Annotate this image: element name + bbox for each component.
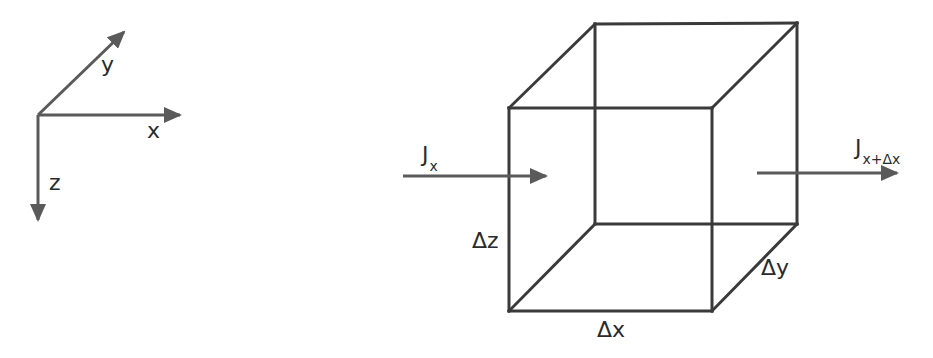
x-axis-label: x [147, 120, 160, 142]
flux-in-subscript: x [430, 158, 438, 174]
control-volume-cube [509, 23, 797, 311]
flux-out-label: Jx+Δx [855, 137, 899, 159]
dx-label: Δx [597, 319, 625, 341]
flux-in-symbol: J [422, 142, 429, 167]
flux-in-label: Jx [422, 144, 437, 166]
dy-label: Δy [761, 257, 789, 279]
y-axis-label: y [101, 54, 114, 76]
z-axis-label: z [49, 172, 61, 194]
diagram-canvas [0, 0, 933, 358]
flux-out-symbol: J [855, 135, 862, 160]
dz-label: Δz [472, 230, 499, 252]
flux-out-subscript: x+Δx [863, 151, 901, 167]
